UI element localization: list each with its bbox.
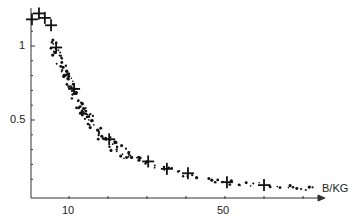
data-dot — [79, 105, 82, 108]
data-dot — [77, 99, 80, 102]
scatter-chart — [0, 0, 355, 221]
data-dot — [84, 118, 86, 120]
data-dot — [154, 167, 156, 169]
data-dot — [258, 182, 260, 184]
data-dot — [210, 179, 213, 182]
cross-marker-icon — [26, 13, 38, 25]
data-dot — [207, 177, 210, 180]
data-dot — [60, 61, 63, 64]
data-dot — [98, 130, 100, 132]
data-dot — [88, 119, 90, 121]
data-dot — [228, 183, 231, 186]
data-dot — [97, 138, 100, 141]
data-dot — [97, 134, 99, 136]
data-dot — [119, 155, 122, 158]
data-dot — [154, 165, 156, 167]
data-dot — [177, 170, 180, 173]
data-dot — [56, 63, 58, 65]
data-dot — [89, 124, 91, 126]
data-dot — [276, 186, 278, 188]
cross-marker-icon — [103, 133, 115, 145]
data-dot — [51, 39, 54, 42]
data-dot — [125, 156, 128, 159]
data-dot — [128, 156, 130, 158]
y-tick-label-1: 1 — [19, 40, 25, 51]
data-dot — [100, 135, 103, 138]
x-tick-label-10: 10 — [62, 205, 74, 216]
data-dot — [89, 114, 91, 116]
data-dot — [216, 179, 219, 182]
x-axis-label: B/KG — [322, 183, 348, 194]
data-dot — [128, 151, 130, 153]
data-dot — [288, 187, 290, 189]
data-dot — [311, 186, 313, 188]
cross-marker-icon — [221, 176, 233, 188]
data-dot — [308, 185, 311, 188]
data-dot — [72, 80, 74, 82]
data-dot — [128, 154, 130, 156]
data-dot — [65, 83, 68, 86]
data-dot — [63, 74, 66, 77]
data-dot — [67, 78, 70, 81]
dot-series — [50, 39, 314, 192]
data-dot — [51, 53, 54, 56]
data-dot — [239, 184, 241, 186]
data-dot — [60, 57, 62, 59]
data-dot — [71, 97, 73, 99]
data-dot — [289, 184, 292, 187]
data-dot — [250, 185, 252, 187]
data-dot — [130, 156, 133, 159]
data-dot — [85, 113, 87, 115]
data-dot — [139, 157, 142, 160]
data-dot — [93, 124, 95, 126]
cross-marker-icon — [68, 83, 80, 95]
data-dot — [214, 181, 217, 184]
data-dot — [67, 75, 70, 78]
data-dot — [109, 149, 112, 152]
data-dot — [65, 70, 68, 73]
y-tick-label-0.5: 0.5 — [10, 114, 25, 125]
data-dot — [92, 115, 94, 117]
data-dot — [65, 65, 67, 67]
data-dot — [115, 141, 118, 144]
cross-marker-icon — [258, 179, 270, 191]
data-dot — [86, 116, 89, 119]
data-dot — [144, 162, 146, 164]
data-dot — [62, 66, 64, 68]
data-dot — [122, 153, 124, 155]
data-dot — [57, 49, 59, 51]
data-dot — [81, 114, 84, 117]
data-dot — [81, 110, 83, 112]
data-dot — [61, 69, 63, 71]
data-dot — [116, 150, 118, 152]
data-dot — [85, 107, 87, 109]
data-dot — [108, 146, 110, 148]
data-dot — [70, 85, 72, 87]
data-dot — [116, 146, 118, 148]
data-dot — [195, 176, 198, 179]
data-dot — [120, 144, 123, 147]
data-dot — [115, 148, 117, 150]
cross-marker-icon — [142, 155, 154, 167]
data-dot — [245, 181, 248, 184]
x-tick-label-50: 50 — [217, 205, 229, 216]
cross-marker-icon — [45, 19, 57, 31]
data-dot — [85, 110, 88, 113]
data-dot — [292, 186, 295, 189]
cross-marker-icon — [161, 163, 173, 175]
data-dot — [295, 187, 298, 190]
data-dot — [305, 189, 307, 191]
data-dot — [89, 126, 92, 129]
data-dot — [52, 43, 54, 45]
data-dot — [71, 77, 73, 79]
data-dot — [252, 182, 254, 184]
cross-series — [26, 7, 270, 191]
cross-marker-icon — [182, 167, 194, 179]
data-dot — [112, 143, 114, 145]
data-dot — [182, 175, 184, 177]
data-dot — [163, 166, 165, 168]
data-dot — [300, 188, 302, 190]
data-dot — [123, 158, 125, 160]
data-dot — [91, 119, 94, 122]
data-dot — [99, 127, 102, 130]
